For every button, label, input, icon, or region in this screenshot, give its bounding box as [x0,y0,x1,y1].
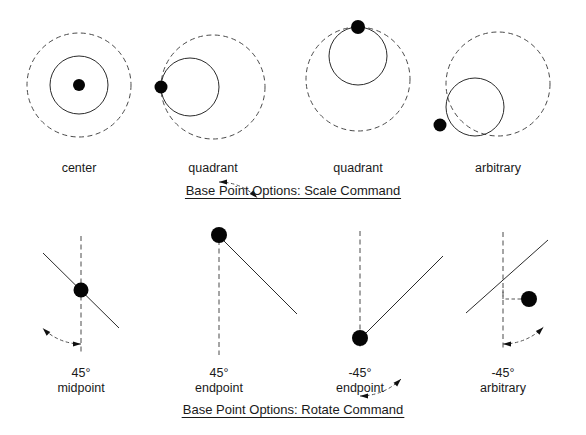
rotate-figure-1: 45°midpoint [43,236,119,395]
scale-figure-label-4: arbitrary [475,161,522,175]
arc-arrow-end [43,328,50,336]
scaled-circle-solid [446,78,504,136]
arc-arrow-start [73,341,81,346]
rotate-figure-angle-1: 45° [72,366,91,380]
base-point-options-diagram: centerquadrantquadrantarbitrary 45°midpo… [0,0,586,435]
base-point-dot [352,330,368,346]
rotated-line-solid [219,236,297,314]
scaled-circle-solid [161,58,219,116]
rotate-command-row: 45°midpoint45°endpoint-45°endpoint-45°ar… [43,179,548,398]
base-point-dot [521,291,537,307]
base-point-dot [73,79,85,91]
base-point-leader [503,287,521,299]
scale-figure-2: quadrant [155,35,266,175]
scale-command-caption: Base Point Options: Scale Command [186,183,401,198]
scale-figure-4: arbitrary [434,32,551,175]
arc-arrow-start [503,341,511,346]
original-circle-dashed [446,32,550,136]
base-point-dot [351,20,365,34]
diagram-canvas: centerquadrantquadrantarbitrary 45°midpo… [0,0,586,435]
base-point-dot [211,227,227,243]
rotate-figure-angle-4: -45° [491,366,514,380]
rotate-figure-label-2: endpoint [195,381,243,395]
scale-figure-label-2: quadrant [188,161,238,175]
original-circle-dashed [306,27,410,131]
rotate-figure-2: 45°endpoint [195,179,297,395]
rotate-figure-label-3: endpoint [336,381,384,395]
rotated-line-solid [360,256,443,339]
scale-figure-3: quadrant [306,20,410,175]
rotate-figure-angle-3: -45° [348,366,371,380]
arc-arrow-end [394,379,401,387]
base-point-dot [155,81,168,94]
base-point-dot [74,283,89,298]
original-circle-dashed [161,35,265,139]
angle-arc [43,328,81,344]
rotate-figure-4: -45°arbitrary [466,232,548,395]
rotate-figure-3: -45°endpoint [336,231,443,399]
rotate-figure-label-4: arbitrary [480,381,527,395]
scaled-circle-solid [329,27,387,85]
scale-command-row: centerquadrantquadrantarbitrary [27,20,550,175]
base-point-dot [434,119,447,132]
scale-figure-label-1: center [62,161,97,175]
rotate-figure-angle-2: 45° [210,366,229,380]
rotate-figure-label-1: midpoint [57,381,105,395]
arc-arrow-end [536,327,544,334]
angle-arc [503,327,543,344]
scale-figure-1: center [27,33,131,175]
rotate-command-caption: Base Point Options: Rotate Command [183,402,403,417]
scale-figure-label-3: quadrant [333,161,383,175]
